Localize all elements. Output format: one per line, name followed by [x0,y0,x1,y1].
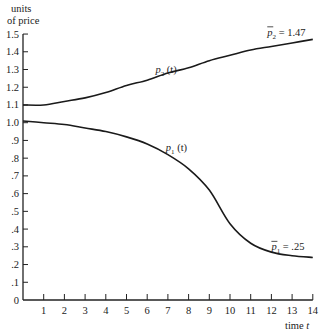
x-tick-label: 7 [165,305,170,316]
x-tick-label: 14 [308,305,319,316]
y-tick-label: .4 [11,224,20,235]
x-tick-label: 9 [207,305,212,316]
y-tick-label: 1.2 [6,82,19,93]
x-tick-label: 12 [266,305,277,316]
y-tick-label: 1.1 [6,99,19,110]
price-over-time-chart: units of price 0.1.2.3.4.5.6.7.8.91.01.1… [0,0,331,334]
y-tick-label: 0 [14,295,19,306]
x-axis-label-var: t [306,320,310,331]
y-tick-label: 1.4 [6,46,20,57]
x-tick-label: 4 [103,305,109,316]
x-tick-label: 8 [186,305,191,316]
x-tick-label: 10 [225,305,236,316]
x-tick-label: 3 [82,305,87,316]
y-tick-label: .2 [11,259,19,270]
y-tick-label: .9 [11,135,19,146]
y-tick-label: .7 [11,170,19,181]
y-tick-label: 1.3 [6,64,19,75]
curve-label: p2 = 1.47 [266,27,305,41]
x-axis-label: time t [285,320,310,331]
y-axis-label-line2: of price [7,15,40,26]
x-tick-label: 6 [145,305,150,316]
x-tick-label: 1 [41,305,46,316]
y-tick-label: .5 [11,206,19,217]
y-axis-label-line1: units [11,3,31,14]
x-tick-label: 13 [287,305,298,316]
y-tick-label: 1.5 [6,29,19,40]
x-tick-label: 5 [124,305,129,316]
y-tick-label: .3 [11,241,19,252]
y-tick-label: 1.0 [6,117,19,128]
y-tick-label: .1 [11,277,19,288]
y-axis: 0.1.2.3.4.5.6.7.8.91.01.11.21.31.41.5 [6,29,28,306]
x-axis-label-time: time [285,320,304,331]
y-tick-label: .6 [11,188,19,199]
y-tick-label: .8 [11,153,19,164]
x-tick-label: 2 [62,305,67,316]
x-axis: 1234567891011121314 [23,294,319,316]
x-tick-label: 11 [246,305,256,316]
curve-annotations: p2 (t)p2 = 1.47p1 (t)p1 = .25 [154,27,305,256]
